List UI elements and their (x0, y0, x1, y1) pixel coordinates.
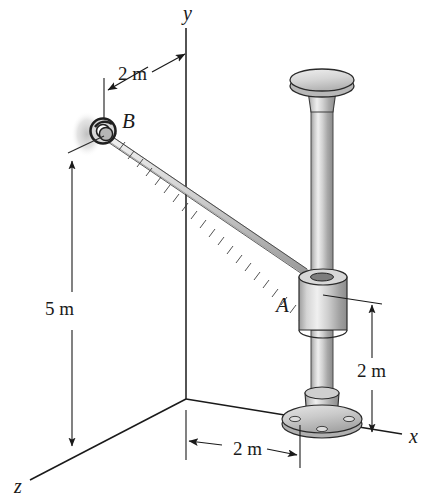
point-b-label: B (122, 109, 135, 133)
point-a-label: A (274, 293, 289, 317)
post-body-upper (311, 107, 333, 292)
dim-bottom-2m-arrow-left (189, 441, 222, 445)
eye-bolt-boss (99, 127, 112, 140)
flange-bolt-hole-front (317, 426, 328, 431)
flange-bolt-hole-left (290, 416, 301, 421)
dim-top-2m-label: 2 m (118, 63, 147, 84)
rope-outline-top (107, 133, 307, 269)
post-cap (290, 69, 354, 112)
x-axis-label: x (408, 425, 418, 447)
flange-hub-top (305, 387, 339, 399)
z-axis-line (30, 399, 186, 480)
collar-bore (311, 273, 334, 281)
dim-right-2m-label: 2 m (357, 360, 386, 381)
rope-core-light (106, 136, 306, 272)
dim-bottom-2m-label: 2 m (233, 438, 262, 459)
dim-bottom-2m-arrow-right (267, 449, 297, 455)
dim-left-5m-label: 5 m (45, 298, 74, 319)
post-cap-disc-top (290, 69, 354, 91)
collar-a (299, 269, 347, 338)
y-axis-label: y (181, 2, 192, 25)
z-axis-label: z (13, 475, 22, 497)
flange-bolt-hole-right (344, 416, 355, 421)
post (311, 107, 333, 408)
base-flange (282, 387, 362, 438)
engineering-diagram: y x z (0, 0, 427, 503)
rope-outline-bottom (105, 140, 305, 276)
dim-top-2m-arrow-right (152, 54, 185, 72)
